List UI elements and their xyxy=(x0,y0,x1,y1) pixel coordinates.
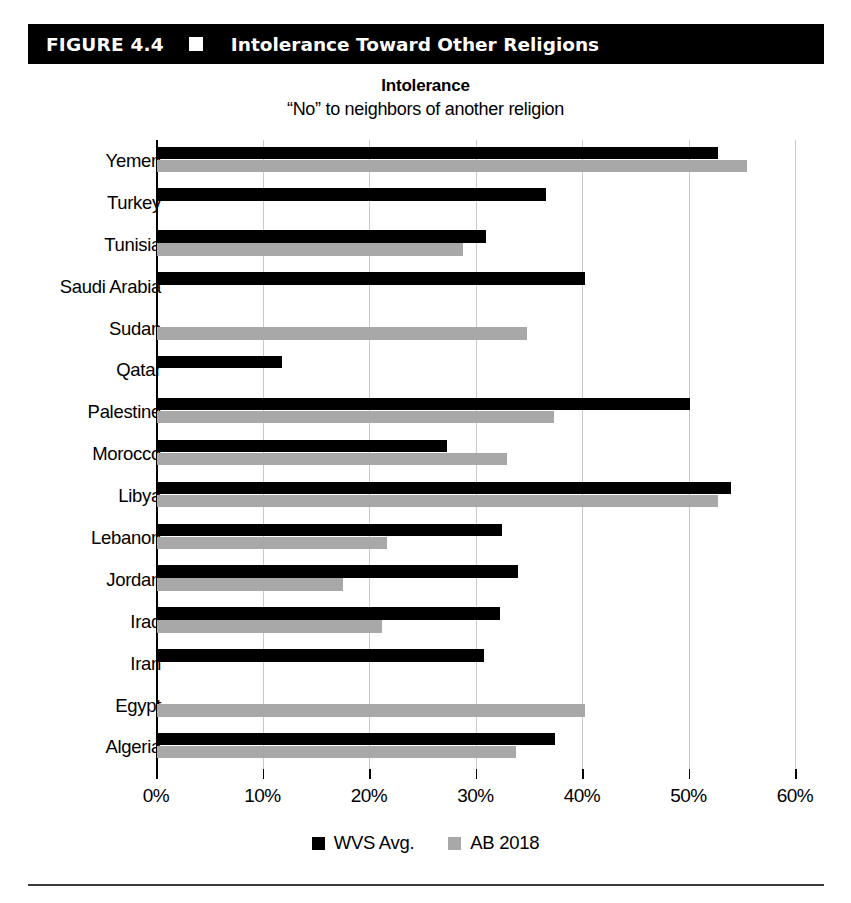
x-tickmark xyxy=(795,769,797,779)
bar-group xyxy=(157,266,851,308)
bar-wvs-avg xyxy=(157,147,718,160)
bar-wvs-avg xyxy=(157,565,518,578)
bar-row: Jordan xyxy=(0,559,851,601)
x-tick-label: 40% xyxy=(564,785,601,807)
bar-group xyxy=(157,391,851,433)
category-label: Sudan xyxy=(109,319,161,338)
figure-number: FIGURE 4.4 xyxy=(46,34,164,55)
bar-wvs-avg xyxy=(157,733,555,746)
gray-square-icon xyxy=(448,837,461,850)
x-tickmark xyxy=(156,769,158,779)
category-label: Morocco xyxy=(92,445,161,464)
bar-wvs-avg xyxy=(157,440,447,453)
bar-row: Iraq xyxy=(0,601,851,643)
legend-label: AB 2018 xyxy=(470,832,539,854)
chart-subtitle: “No” to neighbors of another religion xyxy=(0,99,851,120)
x-tick-label: 20% xyxy=(351,785,388,807)
x-tickmark xyxy=(689,769,691,779)
bar-ab-2018 xyxy=(157,578,343,591)
plot-area: YemenTurkeyTunisiaSaudi ArabiaSudanQatar… xyxy=(0,140,851,770)
bar-row: Algeria xyxy=(0,726,851,768)
bar-row: Qatar xyxy=(0,349,851,391)
category-label: Libya xyxy=(118,487,161,506)
bar-row: Egypt xyxy=(0,685,851,727)
bar-wvs-avg xyxy=(157,272,585,285)
figure-page: FIGURE 4.4 Intolerance Toward Other Reli… xyxy=(0,0,851,903)
bar-ab-2018 xyxy=(157,495,718,508)
bar-row: Morocco xyxy=(0,433,851,475)
bar-group xyxy=(157,140,851,182)
bar-group xyxy=(157,559,851,601)
bar-group xyxy=(157,433,851,475)
bar-group xyxy=(157,182,851,224)
bar-group xyxy=(157,224,851,266)
bar-ab-2018 xyxy=(157,327,527,340)
white-square-icon xyxy=(189,37,203,51)
black-square-icon xyxy=(312,837,325,850)
bar-wvs-avg xyxy=(157,398,690,411)
category-label: Jordan xyxy=(106,571,161,590)
category-label: Yemen xyxy=(106,152,161,171)
bar-row: Saudi Arabia xyxy=(0,266,851,308)
x-tick-label: 60% xyxy=(777,785,814,807)
bar-wvs-avg xyxy=(157,482,731,495)
bar-row: Lebanon xyxy=(0,517,851,559)
bar-wvs-avg xyxy=(157,356,282,369)
bar-ab-2018 xyxy=(157,746,516,759)
x-tickmark xyxy=(476,769,478,779)
category-label: Turkey xyxy=(107,194,161,213)
category-label: Qatar xyxy=(116,361,161,380)
legend-item: AB 2018 xyxy=(448,832,539,854)
category-label: Egypt xyxy=(115,696,161,715)
x-tickmark xyxy=(263,769,265,779)
category-label: Palestine xyxy=(88,403,161,422)
category-label: Tunisia xyxy=(104,235,161,254)
bar-row: Palestine xyxy=(0,391,851,433)
bar-group xyxy=(157,601,851,643)
bar-wvs-avg xyxy=(157,524,502,537)
bar-group xyxy=(157,643,851,685)
x-tick-label: 30% xyxy=(457,785,494,807)
figure-title: Intolerance Toward Other Religions xyxy=(231,34,599,55)
bar-row: Libya xyxy=(0,475,851,517)
bottom-divider xyxy=(28,884,824,886)
x-tickmark xyxy=(582,769,584,779)
bar-row: Sudan xyxy=(0,308,851,350)
bar-group xyxy=(157,726,851,768)
legend-label: WVS Avg. xyxy=(334,832,415,854)
x-tickmark xyxy=(369,769,371,779)
x-axis: 0%10%20%30%40%50%60% xyxy=(0,769,851,819)
bar-ab-2018 xyxy=(157,411,554,424)
chart-title: Intolerance xyxy=(0,76,851,96)
bar-row: Tunisia xyxy=(0,224,851,266)
x-tick-label: 0% xyxy=(143,785,169,807)
bar-group xyxy=(157,349,851,391)
figure-banner: FIGURE 4.4 Intolerance Toward Other Reli… xyxy=(28,24,824,64)
bar-ab-2018 xyxy=(157,620,382,633)
x-tick-label: 10% xyxy=(244,785,281,807)
bar-row: Turkey xyxy=(0,182,851,224)
chart-legend: WVS Avg.AB 2018 xyxy=(0,832,851,854)
bar-group xyxy=(157,685,851,727)
bar-wvs-avg xyxy=(157,607,500,620)
bar-wvs-avg xyxy=(157,188,546,201)
category-label: Saudi Arabia xyxy=(60,277,161,296)
bar-row: Yemen xyxy=(0,140,851,182)
bar-ab-2018 xyxy=(157,453,507,466)
bar-group xyxy=(157,308,851,350)
bar-wvs-avg xyxy=(157,230,486,243)
legend-item: WVS Avg. xyxy=(312,832,415,854)
x-tick-label: 50% xyxy=(670,785,707,807)
bar-ab-2018 xyxy=(157,160,747,173)
bar-row: Iran xyxy=(0,643,851,685)
bar-group xyxy=(157,475,851,517)
category-label: Algeria xyxy=(106,738,162,757)
bar-group xyxy=(157,517,851,559)
bar-rows: YemenTurkeyTunisiaSaudi ArabiaSudanQatar… xyxy=(0,140,851,769)
bar-ab-2018 xyxy=(157,243,463,256)
bar-ab-2018 xyxy=(157,704,585,717)
bar-wvs-avg xyxy=(157,649,484,662)
category-label: Lebanon xyxy=(91,529,161,548)
bar-ab-2018 xyxy=(157,537,387,550)
